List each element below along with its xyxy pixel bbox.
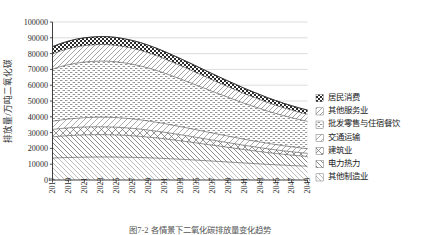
legend-swatch-cross-diamond — [316, 147, 323, 154]
legend-swatch-solid-dark — [316, 174, 323, 181]
y-axis-title: 排放量/万吨二氧化碳 — [2, 59, 13, 142]
x-axis-tick-label: 2019 — [64, 177, 73, 193]
x-axis-tick-label: 2049 — [303, 177, 312, 193]
y-axis-tick-label: 60000 — [28, 81, 48, 90]
x-axis-tick-label: 2041 — [240, 177, 249, 193]
emissions-stacked-area-chart: 0100002000030000400005000060000700008000… — [0, 0, 440, 235]
x-axis-tick-label: 2033 — [176, 177, 185, 193]
y-axis-tick-label: 100000 — [24, 18, 48, 27]
x-axis-tick-label: 2039 — [224, 177, 233, 193]
x-axis-tick-label: 2037 — [208, 177, 217, 193]
x-axis-tick-label: 2021 — [80, 177, 89, 193]
legend-item-label: 批发零售与住宿餐饮 — [328, 118, 401, 128]
legend-item-label: 其他制造业 — [328, 171, 368, 181]
legend-swatch-checker — [316, 95, 323, 102]
x-axis-tick-label: 2029 — [144, 177, 153, 193]
y-axis-tick-label: 30000 — [28, 129, 48, 138]
y-axis-title-text: 排放量/万吨二氧化碳 — [2, 59, 13, 142]
y-axis-tick-label: 50000 — [28, 97, 48, 106]
figure-caption-text: 图7-2 各情景下二氧化碳排放量变化趋势 — [129, 225, 271, 235]
x-axis-tick-labels: 2017201920212023202520272029203120332035… — [48, 177, 312, 193]
legend-swatch-hatch-sparse — [316, 108, 323, 115]
legend-swatch-dotted-dash — [316, 121, 323, 128]
legend-swatch-diagonal-forward — [316, 161, 323, 168]
x-axis-tick-label: 2043 — [256, 177, 265, 193]
legend-item-label: 交通运输 — [328, 132, 361, 142]
legend-item-label: 居民消费 — [328, 92, 360, 102]
x-axis-tick-label: 2025 — [112, 177, 121, 193]
x-axis-tick-label: 2045 — [272, 177, 281, 193]
legend-item-label: 电力热力 — [328, 158, 360, 168]
x-axis-tick-label: 2027 — [128, 177, 137, 193]
legend-swatch-diagonal-thin — [316, 134, 323, 141]
y-axis-tick-label: 0 — [44, 176, 48, 185]
y-axis-tick-label: 20000 — [28, 144, 48, 153]
x-axis-tick-label: 2047 — [287, 177, 296, 193]
x-axis-tick-label: 2017 — [48, 177, 57, 193]
y-axis-tick-label: 10000 — [28, 160, 48, 169]
x-axis-tick-label: 2035 — [192, 177, 201, 193]
y-axis-tick-label: 40000 — [28, 113, 48, 122]
legend-item[interactable]: 批发零售与住宿餐饮 — [316, 118, 401, 128]
y-axis-tick-label: 70000 — [28, 65, 48, 74]
x-axis-tick-label: 2023 — [96, 177, 105, 193]
x-axis-tick-label: 2031 — [160, 177, 169, 193]
figure-caption: 图7-2 各情景下二氧化碳排放量变化趋势 — [129, 225, 271, 235]
y-axis-tick-label: 80000 — [28, 50, 48, 59]
y-axis-tick-label: 90000 — [28, 34, 48, 43]
legend-item-label: 其他服务业 — [328, 105, 368, 115]
legend-item-label: 建筑业 — [328, 145, 352, 155]
